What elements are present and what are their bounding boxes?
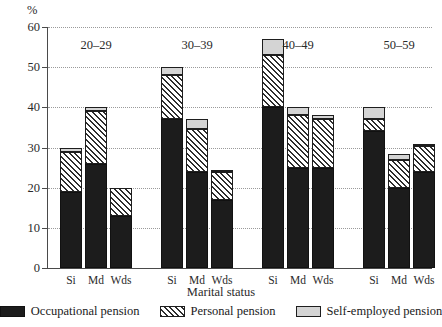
bar-segment-occupational (388, 188, 410, 268)
bar-segment-personal (363, 119, 385, 131)
bar-segment-occupational (161, 119, 183, 268)
x-tick-label-20–29-Wds: Wds (110, 275, 131, 287)
bar-segment-occupational (60, 192, 82, 268)
bar-segment-occupational (312, 168, 334, 268)
plot-area: 0102030405060 20–2930–3940–4950–59 SiMdW… (47, 27, 432, 268)
y-tick-40 (42, 107, 47, 108)
bar-30–39-Si (161, 67, 183, 268)
bar-segment-personal (85, 111, 107, 163)
x-tick-label-50–59-Wds: Wds (413, 275, 434, 287)
legend-item-self[interactable]: Self-employed pension (296, 305, 442, 318)
bar-segment-occupational (211, 200, 233, 268)
bar-segment-personal (211, 172, 233, 200)
bar-40–49-Si (262, 39, 284, 268)
group-header-30–39: 30–39 (181, 39, 212, 52)
group-header-40–49: 40–49 (282, 39, 313, 52)
x-tick-label-50–59-Si: Si (369, 275, 379, 287)
stacked-bar-chart: % 0102030405060 20–2930–3940–4950–59 SiM… (0, 0, 442, 327)
bar-segment-occupational (110, 216, 132, 268)
bar-segment-personal (287, 115, 309, 167)
bar-segment-personal (60, 152, 82, 192)
bar-50–59-Wds (413, 143, 435, 268)
solid-black-swatch (0, 306, 25, 317)
legend-label: Occupational pension (31, 305, 140, 318)
y-tick-label-10: 10 (28, 222, 41, 235)
hatched-swatch (160, 306, 185, 317)
bar-segment-self-employed (287, 107, 309, 115)
y-tick-30 (42, 148, 47, 149)
bar-segment-occupational (186, 172, 208, 268)
bar-20–29-Wds (110, 188, 132, 268)
bar-50–59-Si (363, 107, 385, 268)
bar-segment-self-employed (262, 39, 284, 55)
bar-segment-self-employed (388, 154, 410, 160)
bar-segment-self-employed (85, 107, 107, 111)
bar-segment-self-employed (60, 148, 82, 152)
bar-30–39-Wds (211, 170, 233, 268)
light-grey-swatch (296, 306, 321, 317)
legend-item-occ[interactable]: Occupational pension (0, 305, 140, 318)
bar-segment-self-employed (312, 115, 334, 119)
x-tick-label-20–29-Md: Md (88, 275, 104, 287)
bar-30–39-Md (186, 119, 208, 268)
group-header-20–29: 20–29 (80, 39, 111, 52)
x-tick-label-50–59-Md: Md (391, 275, 407, 287)
y-tick-label-50: 50 (28, 61, 41, 74)
bar-segment-occupational (363, 131, 385, 268)
legend-label: Personal pension (191, 305, 276, 318)
bar-segment-occupational (85, 164, 107, 268)
y-tick-0 (42, 268, 47, 269)
group-header-50–59: 50–59 (383, 39, 414, 52)
bar-segment-occupational (262, 107, 284, 268)
y-tick-label-60: 60 (28, 21, 41, 34)
chart-legend: Occupational pensionPersonal pensionSelf… (0, 305, 442, 318)
bar-20–29-Md (85, 107, 107, 268)
bar-segment-self-employed (211, 170, 233, 172)
bar-40–49-Md (287, 107, 309, 268)
bar-segment-self-employed (413, 144, 435, 146)
x-tick-label-20–29-Si: Si (66, 275, 76, 287)
x-axis-line (47, 268, 432, 269)
gridline-50 (48, 67, 432, 68)
bar-segment-occupational (287, 168, 309, 268)
y-tick-label-30: 30 (28, 141, 41, 154)
y-tick-50 (42, 67, 47, 68)
x-axis-title: Marital status (187, 286, 255, 299)
x-tick-label-30–39-Si: Si (167, 275, 177, 287)
y-tick-10 (42, 228, 47, 229)
legend-item-per[interactable]: Personal pension (160, 305, 276, 318)
bar-segment-personal (312, 119, 334, 167)
bar-segment-self-employed (161, 67, 183, 75)
y-tick-label-20: 20 (28, 181, 41, 194)
legend-label: Self-employed pension (327, 305, 442, 318)
bar-segment-self-employed (363, 107, 385, 119)
y-tick-label-40: 40 (28, 101, 41, 114)
bar-segment-occupational (413, 172, 435, 268)
x-tick-label-40–49-Wds: Wds (312, 275, 333, 287)
bar-segment-personal (388, 160, 410, 188)
y-tick-60 (42, 27, 47, 28)
y-axis-unit-label: % (27, 4, 37, 17)
x-tick-label-40–49-Md: Md (290, 275, 306, 287)
bar-40–49-Wds (312, 115, 334, 268)
bar-segment-self-employed (186, 119, 208, 129)
bar-segment-personal (110, 188, 132, 216)
x-tick-label-40–49-Si: Si (268, 275, 278, 287)
bar-segment-personal (161, 75, 183, 119)
y-tick-label-0: 0 (34, 262, 40, 275)
bar-segment-personal (413, 146, 435, 172)
bar-segment-personal (186, 129, 208, 171)
bar-20–29-Si (60, 148, 82, 269)
y-tick-20 (42, 188, 47, 189)
bar-segment-personal (262, 55, 284, 107)
bar-50–59-Md (388, 154, 410, 268)
gridline-60 (48, 27, 432, 28)
